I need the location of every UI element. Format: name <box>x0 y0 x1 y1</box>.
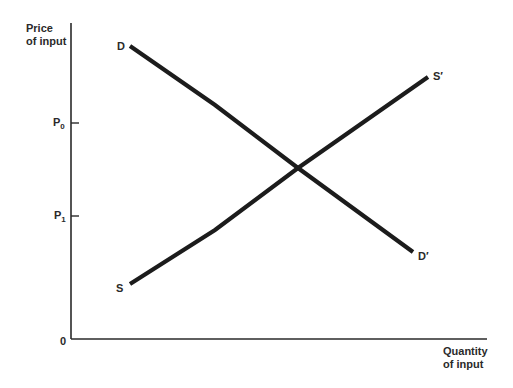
supply-curve <box>130 77 428 284</box>
y-axis-label: Price of input <box>26 22 66 48</box>
p0-sub: 0 <box>60 122 64 131</box>
x-axis-label-line2: of input <box>443 358 488 371</box>
supply-demand-diagram <box>0 0 513 388</box>
supply-start-label: S <box>116 282 123 295</box>
demand-curve <box>130 46 413 252</box>
demand-start-label: D <box>117 40 125 53</box>
demand-end-label: D′ <box>418 250 429 263</box>
supply-end-label: S′ <box>433 70 443 83</box>
y-axis-label-line2: of input <box>26 35 66 48</box>
x-axis-label-line1: Quantity <box>443 345 488 358</box>
p1-label: P1 <box>54 209 66 223</box>
x-axis-label: Quantity of input <box>443 345 488 371</box>
p0-label: P0 <box>53 116 65 130</box>
origin-label: 0 <box>60 335 66 348</box>
p1-sub: 1 <box>61 215 65 224</box>
y-axis-label-line1: Price <box>26 22 66 35</box>
